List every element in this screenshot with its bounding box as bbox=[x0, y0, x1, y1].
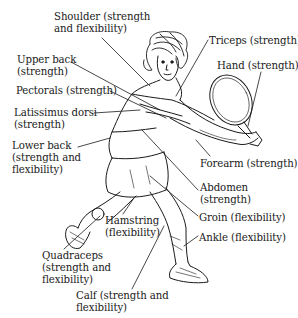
torso-drawing bbox=[106, 78, 214, 197]
label-pectorals: Pectorals (strength) bbox=[16, 85, 117, 97]
shoulder-leader bbox=[102, 38, 150, 86]
face-drawing bbox=[157, 56, 178, 80]
label-calf: Calf (strength and flexibility) bbox=[76, 290, 169, 314]
label-latissimus-dorsi: Latissimus dorsi (strength) bbox=[14, 107, 97, 131]
latissimus-leader bbox=[94, 110, 140, 113]
label-hamstring: Hamstring (flexibility) bbox=[105, 215, 160, 239]
label-quadraceps: Quadraceps (strength and flexibility) bbox=[42, 250, 111, 286]
lower-back-leader bbox=[78, 138, 110, 147]
muscle-diagram: Shoulder (strength and flexibility) Uppe… bbox=[0, 0, 298, 318]
label-abdomen: Abdomen (strength) bbox=[200, 182, 251, 206]
hair-drawing bbox=[143, 32, 187, 71]
label-triceps: Triceps (strength) bbox=[209, 35, 298, 47]
label-forearm: Forearm (strength) bbox=[200, 158, 298, 170]
hamstring-leader bbox=[123, 198, 134, 214]
label-shoulder: Shoulder (strength and flexibility) bbox=[54, 11, 150, 35]
label-ankle: Ankle (flexibility) bbox=[199, 232, 286, 244]
label-groin: Groin (flexibility) bbox=[199, 212, 285, 224]
forearm-leader bbox=[196, 140, 210, 156]
hand-leader bbox=[248, 72, 261, 126]
label-upper-back: Upper back (strength) bbox=[17, 54, 76, 78]
arm-and-racket-drawing bbox=[170, 68, 262, 146]
label-hand: Hand (strength) bbox=[217, 60, 298, 72]
quadraceps-leader bbox=[64, 216, 100, 249]
label-lower-back: Lower back (strength and flexibility) bbox=[12, 140, 81, 176]
abdomen-leader bbox=[142, 130, 198, 190]
